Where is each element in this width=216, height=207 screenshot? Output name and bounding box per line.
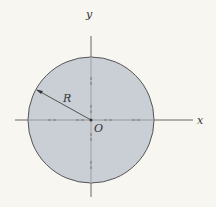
x-axis-label: x <box>197 114 204 127</box>
y-axis-label: y <box>85 8 93 21</box>
origin-point <box>90 119 93 122</box>
origin-label: O <box>94 122 103 135</box>
circle-diagram: y x O R <box>0 0 216 207</box>
radius-label: R <box>62 92 71 105</box>
